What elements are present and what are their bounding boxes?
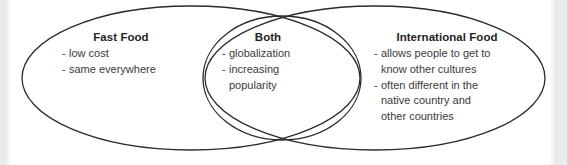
bullet-dash: - — [222, 62, 229, 78]
list-item-text: same everywhere — [69, 62, 188, 78]
list-item-continuation: - other countries — [374, 109, 538, 125]
list-item: - globalization — [222, 46, 336, 62]
bullet-dash: - — [374, 46, 381, 62]
venn-diagram-canvas: Fast Food - low cost - same everywhere B… — [0, 0, 567, 165]
group-international-food: International Food - allows people to ge… — [370, 29, 538, 124]
list-item-text: allows people to get to — [381, 46, 538, 62]
list-item-text: increasing — [229, 62, 336, 78]
group-both-title: Both — [218, 29, 336, 45]
list-item-text: low cost — [69, 46, 188, 62]
bullet-dash: - — [62, 46, 69, 62]
group-fast-food: Fast Food - low cost - same everywhere — [58, 29, 188, 78]
list-item: - often different in the — [374, 78, 538, 94]
bullet-dash: - — [374, 78, 381, 94]
group-both: Both - globalization - increasing - popu… — [218, 29, 336, 93]
group-international-food-title: International Food — [370, 29, 538, 45]
group-fast-food-title: Fast Food — [58, 29, 188, 45]
list-item-text: other countries — [381, 109, 538, 125]
list-item-text: globalization — [229, 46, 336, 62]
bullet-dash: - — [62, 62, 69, 78]
group-both-items: - globalization - increasing - popularit… — [218, 46, 336, 93]
list-item-text: know other cultures — [381, 62, 538, 78]
list-item: - increasing — [222, 62, 336, 78]
list-item-continuation: - know other cultures — [374, 62, 538, 78]
list-item: - allows people to get to — [374, 46, 538, 62]
list-item-text: popularity — [229, 78, 336, 94]
list-item-continuation: - popularity — [222, 78, 336, 94]
list-item-text: native country and — [381, 93, 538, 109]
list-item-continuation: - native country and — [374, 93, 538, 109]
bullet-dash: - — [222, 46, 229, 62]
group-fast-food-items: - low cost - same everywhere — [58, 46, 188, 77]
group-international-food-items: - allows people to get to - know other c… — [370, 46, 538, 124]
list-item-text: often different in the — [381, 78, 538, 94]
list-item: - low cost — [62, 46, 188, 62]
list-item: - same everywhere — [62, 62, 188, 78]
